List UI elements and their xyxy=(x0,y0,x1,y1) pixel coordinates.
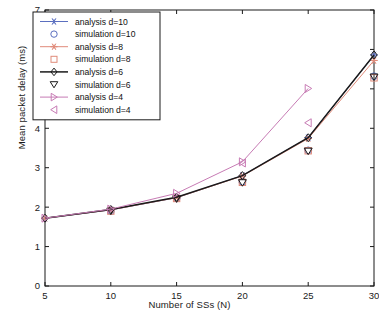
legend-label: simulation d=10 xyxy=(75,29,136,39)
legend-label: simulation d=8 xyxy=(75,54,131,64)
legend-label: simulation d=4 xyxy=(75,105,131,115)
triangle-left-marker xyxy=(305,119,312,127)
y-tick-label: 2 xyxy=(35,202,40,213)
y-axis-label: Mean packet delay (ms) xyxy=(16,23,27,173)
figure: 51015202530 01234567 analysis d=10simula… xyxy=(0,0,379,317)
x-axis-label: Number of SSs (N) xyxy=(0,299,379,310)
y-tick-label: 0 xyxy=(35,280,40,291)
legend-label: analysis d=8 xyxy=(75,42,123,52)
legend-label: analysis d=10 xyxy=(75,17,128,27)
legend-label: analysis d=6 xyxy=(75,67,123,77)
legend-label: simulation d=6 xyxy=(75,80,131,90)
legend-label: analysis d=4 xyxy=(75,92,123,102)
y-tick-label: 3 xyxy=(35,162,40,173)
y-tick-label: 1 xyxy=(35,241,40,252)
legend-box xyxy=(33,12,160,120)
y-tick-label: 4 xyxy=(35,123,40,134)
chart-canvas: 51015202530 01234567 analysis d=10simula… xyxy=(0,0,379,317)
legend: analysis d=10simulation d=10analysis d=8… xyxy=(33,12,160,120)
